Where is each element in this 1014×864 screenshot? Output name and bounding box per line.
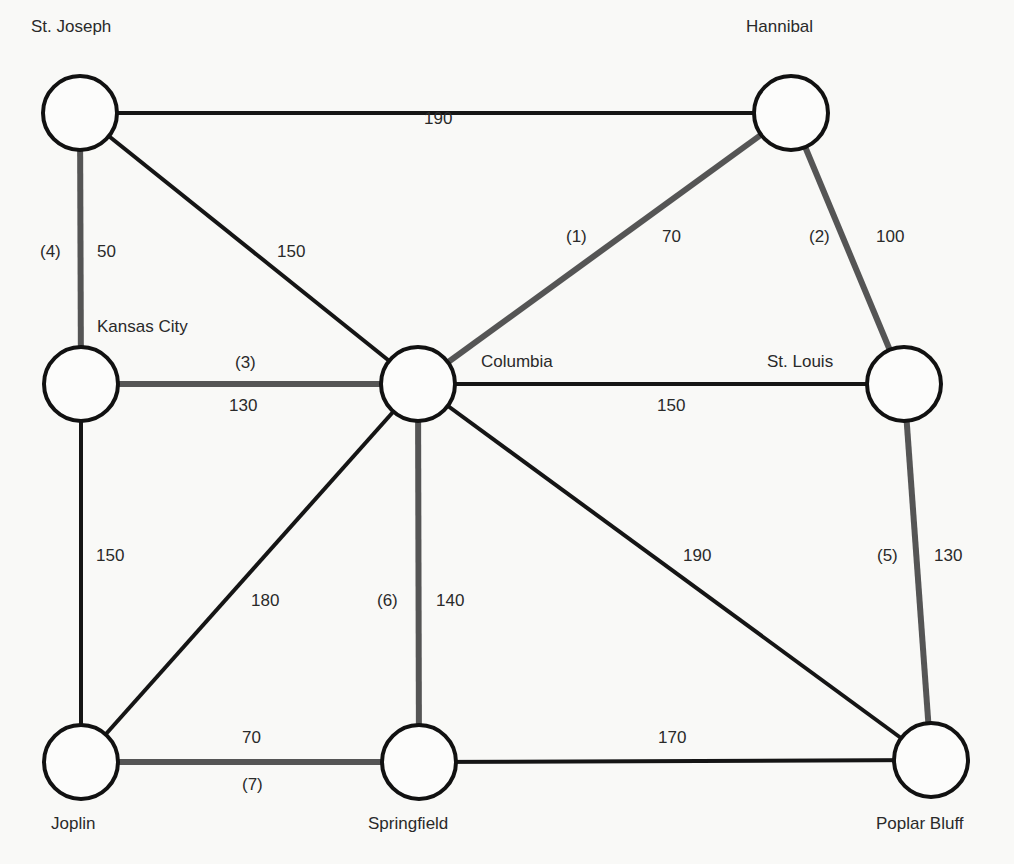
edge-order-label: (1) [566, 228, 587, 245]
edge-stlouis-poplarbluff [904, 384, 931, 760]
edge-weight-label: 150 [96, 547, 124, 564]
edge-weight-label: 190 [683, 547, 711, 564]
edge-hannibal-stlouis [791, 113, 904, 384]
graph-canvas [0, 0, 1014, 864]
edge-weight-label: 130 [934, 547, 962, 564]
edge-weight-label: 130 [229, 397, 257, 414]
city-label-poplarbluff: Poplar Bluff [876, 815, 964, 832]
node-poplarbluff [894, 723, 968, 797]
nodes-layer [43, 76, 968, 799]
node-springfield [382, 725, 456, 799]
node-joplin [44, 725, 118, 799]
edge-columbia-joplin [81, 384, 418, 762]
edge-order-label: (5) [877, 547, 898, 564]
edge-weight-label: 180 [251, 592, 279, 609]
edge-weight-label: 140 [436, 592, 464, 609]
edge-weight-label: 150 [277, 243, 305, 260]
edge-stjoseph-columbia [80, 113, 418, 384]
edge-stjoseph-kansascity [80, 113, 81, 384]
edge-columbia-springfield [418, 384, 419, 762]
city-label-stjoseph: St. Joseph [31, 18, 111, 35]
city-label-stlouis: St. Louis [767, 353, 833, 370]
edge-hannibal-columbia [418, 113, 791, 384]
edge-weight-label: 190 [424, 110, 452, 127]
edge-order-label: (3) [235, 354, 256, 371]
edge-order-label: (6) [377, 592, 398, 609]
node-hannibal [754, 76, 828, 150]
edge-order-label: (2) [809, 228, 830, 245]
edge-weight-label: 150 [657, 397, 685, 414]
city-label-hannibal: Hannibal [746, 18, 813, 35]
edge-weight-label: 100 [876, 228, 904, 245]
node-kansascity [44, 347, 118, 421]
edge-weight-label: 50 [97, 243, 116, 260]
city-label-columbia: Columbia [481, 353, 553, 370]
node-stlouis [867, 347, 941, 421]
edge-springfield-poplarbluff [419, 760, 931, 762]
edge-weight-label: 70 [242, 729, 261, 746]
city-label-springfield: Springfield [368, 815, 448, 832]
edge-weight-label: 70 [662, 228, 681, 245]
edge-columbia-poplarbluff [418, 384, 931, 760]
edge-weight-label: 170 [658, 729, 686, 746]
edge-order-label: (4) [40, 243, 61, 260]
city-label-kansascity: Kansas City [97, 318, 188, 335]
node-columbia [381, 347, 455, 421]
edges-layer [80, 113, 931, 762]
edge-order-label: (7) [242, 776, 263, 793]
city-label-joplin: Joplin [51, 815, 95, 832]
node-stjoseph [43, 76, 117, 150]
